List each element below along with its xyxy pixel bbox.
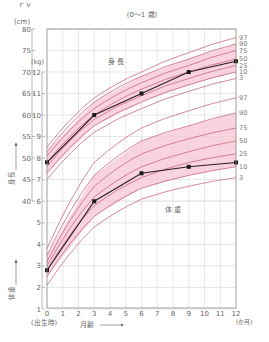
x-tick-label: 2	[76, 310, 80, 318]
weight-tick-label: 6	[37, 198, 42, 206]
weight-percentile-label: 3	[239, 174, 243, 182]
x-tick-label: 4	[108, 310, 113, 318]
xlabel: 月齢	[80, 320, 94, 329]
x-tick-label: 8	[171, 310, 175, 318]
height-tick-label: 70	[22, 69, 31, 77]
data-point	[92, 113, 96, 117]
weight-percentile-label: 97	[239, 94, 247, 102]
growth-chart: ｒｖ (0〜1 歳) (cm) (kg) 9790755025103979075…	[0, 0, 269, 342]
x-tick-label: 9	[187, 310, 191, 318]
data-point	[187, 165, 191, 169]
weight-axis-title: 体重	[7, 286, 16, 300]
height-tick-label: 80	[22, 26, 31, 34]
weight-percentile-label: 50	[239, 137, 247, 145]
weight-percentile-label: 25	[239, 150, 247, 158]
weight-tick-label: 5	[37, 219, 41, 227]
weight-series-label: 体 重	[165, 205, 181, 214]
x-tick-label: 3	[92, 310, 96, 318]
weight-unit: (kg)	[31, 58, 44, 66]
x-unit: (か月)	[236, 318, 253, 326]
x-tick-label: 11	[216, 310, 225, 318]
top-fragment: ｒｖ	[18, 1, 32, 9]
height-percentile-label: 75	[239, 47, 247, 55]
height-tick-label: 45	[22, 176, 31, 184]
weight-tick-label: 12	[32, 69, 41, 77]
xlabel-arrow-head	[121, 324, 124, 327]
weight-tick-label: 1	[37, 306, 41, 314]
height-tick-label: 75	[22, 47, 31, 55]
data-point	[187, 70, 191, 74]
weight-percentile-label: 75	[239, 124, 247, 132]
height-axis-arrowhead	[15, 142, 18, 146]
data-point	[140, 92, 144, 96]
x-tick-label: 10	[200, 310, 209, 318]
height-tick-label: 50	[22, 155, 31, 163]
weight-tick-label: 2	[37, 284, 41, 292]
x-zero-note: (出生時)	[31, 318, 57, 327]
height-tick-label: 55	[22, 133, 31, 141]
x-tick-label: 1	[61, 310, 65, 318]
x-tick-label: 5	[124, 310, 128, 318]
weight-tick-label: 11	[32, 90, 41, 98]
weight-tick-label: 4	[37, 241, 42, 249]
weight-tick-label: 10	[32, 112, 41, 120]
data-point	[92, 199, 96, 203]
x-tick-label: 7	[155, 310, 159, 318]
weight-percentile-label: 90	[239, 109, 247, 117]
x-tick-label: 12	[232, 310, 241, 318]
height-series-label: 身 長	[108, 57, 124, 66]
weight-tick-label: 9	[37, 133, 41, 141]
x-tick-label: 0	[45, 310, 49, 318]
x-tick-label: 6	[139, 310, 144, 318]
height-axis-title: 身長	[7, 171, 16, 185]
chart-title: (0〜1 歳)	[127, 10, 158, 19]
height-tick-label: 40	[22, 198, 31, 206]
weight-axis-arrowhead	[15, 259, 18, 263]
height-tick-label: 65	[22, 90, 31, 98]
height-percentile-label: 3	[239, 74, 243, 82]
weight-tick-label: 3	[37, 262, 41, 270]
height-tick-label: 60	[22, 112, 31, 120]
weight-percentile-label: 10	[239, 163, 247, 171]
weight-tick-label: 8	[37, 155, 41, 163]
data-point	[140, 171, 144, 175]
weight-tick-label: 7	[37, 176, 41, 184]
